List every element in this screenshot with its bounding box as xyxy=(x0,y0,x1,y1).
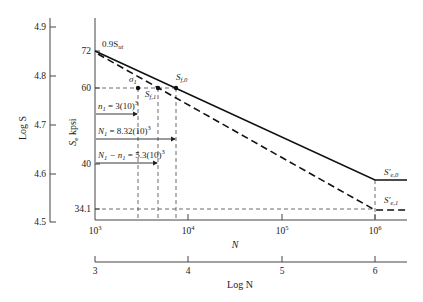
sut-label: 0.9Sut xyxy=(102,39,124,50)
y-tick-40: 40 xyxy=(82,159,92,169)
log-s-tick-4.6: 4.6 xyxy=(34,169,46,179)
n1-annotation: n1 = 3(10)3 xyxy=(98,99,138,112)
y-tick-72: 72 xyxy=(82,46,92,56)
x-tick-1e3: 103 xyxy=(89,224,102,236)
log-s-tick-4.8: 4.8 xyxy=(34,71,46,81)
n-axis-label: N xyxy=(231,239,240,250)
annotations: 0.9Sut σ1 Sf,1 Sf,0 S′e,0 S′e,1 n1 = 3(1… xyxy=(96,39,399,206)
y-tick-34.1: 34.1 xyxy=(74,204,91,214)
se-kpsi-label: Se kpsi xyxy=(67,118,80,146)
log-n-tick-3: 3 xyxy=(93,266,98,276)
sigma1-label: σ1 xyxy=(129,74,137,85)
log-n-tick-6: 6 xyxy=(373,266,378,276)
x-tick-1e4: 104 xyxy=(182,224,196,236)
se0-label: S′e,0 xyxy=(384,167,399,178)
log-n-label: Log N xyxy=(227,279,253,290)
N1-annotation: N1 = 8.32(10)3 xyxy=(97,124,151,137)
se1-label: S′e,1 xyxy=(384,195,398,206)
log-s-tick-4.7: 4.7 xyxy=(34,120,46,130)
y-tick-60: 60 xyxy=(82,83,92,93)
diff-annotation: N1 − n1 = 5.3(10)3 xyxy=(97,148,165,161)
sf1-point xyxy=(156,86,160,90)
log-n-tick-5: 5 xyxy=(280,266,285,276)
sigma1-point xyxy=(136,86,140,90)
sn-diagram-chart: 4.9 4.8 4.7 4.6 4.5 Log S 72 60 40 34.1 … xyxy=(0,0,423,302)
log-s-label: Log S xyxy=(17,116,28,140)
sf0-point xyxy=(174,86,178,90)
x-tick-1e5: 105 xyxy=(276,224,289,236)
log-s-tick-4.5: 4.5 xyxy=(34,217,46,227)
x-tick-1e6: 106 xyxy=(369,224,383,236)
log-s-tick-4.9: 4.9 xyxy=(34,22,46,32)
sf1-label: Sf,1 xyxy=(145,89,156,100)
original-sn-line xyxy=(95,51,407,180)
sf0-label: Sf,0 xyxy=(176,72,188,83)
log-n-tick-4: 4 xyxy=(186,266,191,276)
log-n-axis: 3 4 5 6 Log N xyxy=(93,256,407,290)
log-s-axis: 4.9 4.8 4.7 4.6 4.5 Log S xyxy=(17,18,56,227)
